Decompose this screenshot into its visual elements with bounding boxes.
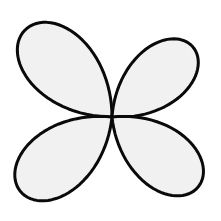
petal-upper-left <box>17 22 112 117</box>
petal-lower-right <box>112 116 203 195</box>
rose-curve-figure <box>0 0 221 221</box>
petal-lower-left <box>15 116 112 200</box>
figure-canvas <box>0 0 221 221</box>
petal-upper-right <box>112 39 198 117</box>
